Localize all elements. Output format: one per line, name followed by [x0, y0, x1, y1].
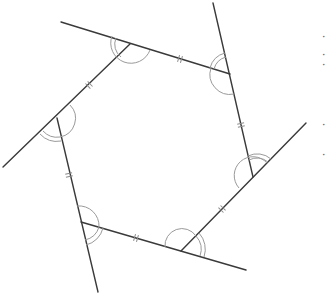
- hexagon-diagram: [0, 0, 326, 298]
- side-cd-extended: [181, 123, 306, 251]
- clipped-text-1: ·: [322, 32, 326, 44]
- hexagon-sides: [3, 3, 306, 292]
- angle-arc-d-inner2: [199, 233, 205, 257]
- clipped-text-4: ·: [322, 120, 326, 132]
- angle-arc-f-inner: [43, 131, 60, 137]
- angle-arc-b-inner: [214, 57, 226, 69]
- side-bc-extended: [213, 3, 253, 177]
- side-ab-extended: [61, 22, 230, 74]
- angle-arc-d-outer: [165, 229, 196, 247]
- tick-ef: [65, 173, 72, 177]
- clipped-text-3: ·: [322, 60, 326, 72]
- angle-arc-b-inner2: [210, 53, 225, 68]
- angle-arc-c-outer: [234, 157, 267, 188]
- angle-arcs: [40, 36, 271, 257]
- angle-arc-e-inner2: [86, 228, 103, 245]
- angle-arc-a-outer: [111, 36, 150, 63]
- side-ef-extended: [57, 118, 98, 292]
- side-de-extended: [81, 222, 246, 270]
- tick-fa: [85, 81, 92, 88]
- side-fa-extended: [3, 44, 130, 167]
- clipped-text-5: ·: [322, 150, 326, 162]
- angle-arc-e-inner: [85, 227, 99, 240]
- angle-arc-d-inner: [196, 236, 201, 256]
